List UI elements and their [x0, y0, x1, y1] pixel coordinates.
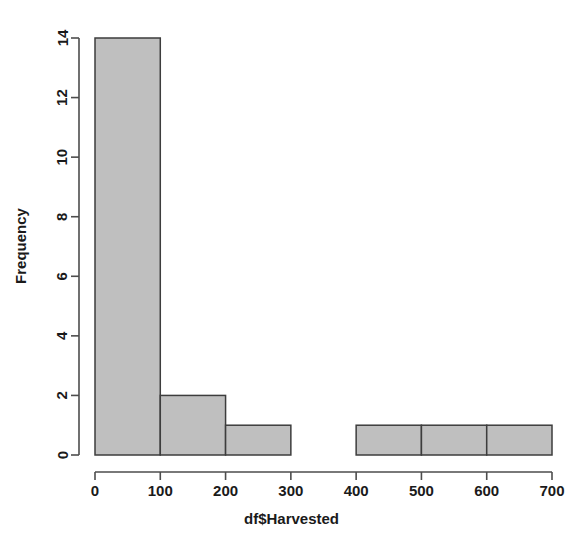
x-axis-tick-label: 600: [474, 482, 499, 499]
plot-canvas: 02468101214 0100200300400500600700 df$Ha…: [0, 0, 583, 553]
y-axis-tick-label: 10: [54, 149, 71, 166]
histogram-bar: [226, 425, 291, 455]
y-axis-tick-label: 0: [54, 451, 71, 459]
y-axis-tick-label: 12: [54, 89, 71, 106]
x-axis-tick-label: 700: [539, 482, 564, 499]
x-axis-tick-label: 100: [148, 482, 173, 499]
x-axis-tick-label: 300: [278, 482, 303, 499]
histogram-bar: [487, 425, 552, 455]
histogram-bar: [160, 395, 225, 455]
y-axis-tick-label: 4: [54, 331, 71, 340]
histogram-bar: [95, 38, 160, 455]
y-axis-tick-label: 14: [54, 29, 71, 46]
y-axis-tick-label: 2: [54, 391, 71, 399]
x-axis-title: df$Harvested: [244, 510, 339, 527]
histogram-bar: [421, 425, 486, 455]
y-axis-tick-label: 8: [54, 213, 71, 221]
histogram-bar: [356, 425, 421, 455]
x-axis-tick-label: 400: [344, 482, 369, 499]
x-axis-tick-label: 0: [91, 482, 99, 499]
x-axis-tick-label: 500: [409, 482, 434, 499]
histogram-plot: 02468101214 0100200300400500600700 df$Ha…: [0, 0, 583, 553]
y-axis-tick-label: 6: [54, 272, 71, 280]
plot-background: [0, 0, 583, 553]
x-axis-tick-label: 200: [213, 482, 238, 499]
y-axis-title: Frequency: [12, 207, 29, 284]
